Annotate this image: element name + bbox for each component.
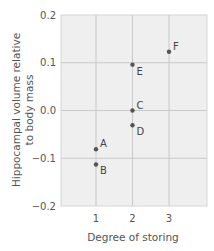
point-label: C [137,100,144,111]
point-marker [94,162,98,166]
point-label: F [173,41,179,52]
point-marker [94,147,98,151]
y-tick-label: −0.2 [32,201,56,212]
y-tick-label: −0.1 [32,153,56,164]
x-tick-label: 3 [166,213,172,224]
point-marker [130,108,134,112]
x-tick-labels: 123 [93,213,172,224]
y-tick-labels: 0.20.10.0−0.1−0.2 [32,10,56,212]
scatter-chart: 0.20.10.0−0.1−0.2 123 ABCDEF Degree of s… [0,0,214,251]
y-tick-label: 0.1 [40,57,56,68]
point-marker [130,62,134,66]
y-tick-label: 0.0 [40,105,56,116]
x-tick-label: 2 [129,213,135,224]
y-tick-label: 0.2 [40,10,56,21]
y-axis-label-line-1: Hippocampal volume relative [10,33,22,187]
point-marker [167,50,171,54]
point-label: B [100,165,107,176]
point-label: A [100,138,107,149]
point-label: E [137,66,143,77]
x-tick-label: 1 [93,213,99,224]
x-axis-label: Degree of storing [87,231,179,243]
y-axis-label-line-2: to body mass [23,75,35,146]
point-label: D [137,126,145,137]
point-marker [130,123,134,127]
y-axis-label: Hippocampal volume relative to body mass [10,33,35,187]
